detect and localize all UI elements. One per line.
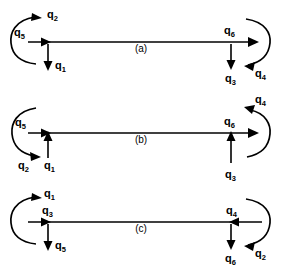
panel-c-caption: (c) [135,223,147,234]
panel-a-line-arrowhead-inner [41,38,51,47]
panel-c-left-vertical-arrowhead [44,241,53,251]
panel-b-line-arrowhead-right [248,128,259,138]
panel-c-label-q1: q1 [44,187,55,202]
panel-a-label-q2: q2 [47,8,58,23]
panel-b-right-arc-arrowhead [244,105,255,114]
physics-diagram-figure: q2 q5 q1 q6 q3 q4 (a) [0,0,282,268]
panel-a-label-q5: q5 [14,26,25,41]
panel-a-label-q1: q1 [55,59,66,74]
panel-a-label-q3: q3 [225,72,236,87]
panel-a-left-arc-arrowhead [31,13,42,21]
panel-a-label-q6: q6 [224,24,235,39]
panel-c-right-arc-arrowhead [244,242,255,251]
panel-b-left-arc-arrowhead [30,152,41,161]
panel-a-caption: (a) [135,43,147,54]
panel-a-right-vertical-arrowhead [227,60,236,70]
panel-a-line-arrowhead-right [248,37,259,47]
panel-b-label-q6: q6 [224,115,235,130]
panel-a-label-q4: q4 [255,67,267,82]
panel-c: q1 q3 q5 q4 q6 q2 (c) [11,187,270,267]
panel-b-caption: (b) [135,134,147,145]
panel-b-label-q2: q2 [18,159,29,174]
panel-a-right-arc-arrowhead [244,62,255,71]
panel-a: q2 q5 q1 q6 q3 q4 (a) [11,8,270,87]
panel-b-label-q5: q5 [15,116,26,131]
panel-b-label-q1: q1 [44,159,55,174]
panel-c-label-q2: q2 [255,247,266,262]
panel-c-label-q6: q6 [225,252,236,267]
panel-a-left-vertical-arrowhead [44,61,53,71]
panel-c-right-vertical-arrowhead [227,240,236,250]
panel-b: q5 q2 q1 q6 q3 q4 (b) [12,93,270,183]
panel-c-label-q4: q4 [226,204,238,219]
panel-c-label-q5: q5 [55,239,66,254]
panel-b-label-q4: q4 [255,93,267,108]
panel-b-label-q3: q3 [225,168,236,183]
panel-c-left-arc-arrowhead [31,193,42,201]
panel-c-left-arc [11,197,36,244]
panel-c-label-q3: q3 [42,204,53,219]
